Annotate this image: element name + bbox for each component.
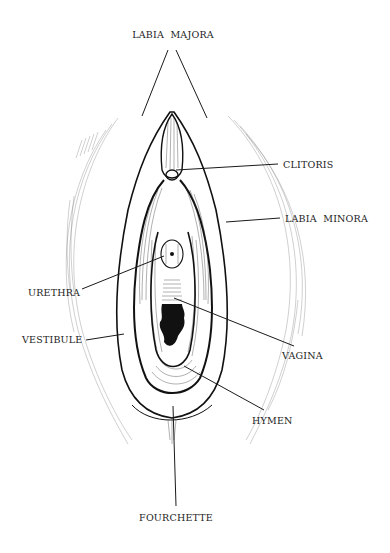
fourchette-shading — [168, 420, 176, 444]
label-urethra: URETHRA — [28, 287, 80, 298]
labia-majora-left-hatching — [66, 118, 132, 444]
vaginal-opening — [160, 280, 185, 346]
leader-labia-minora — [226, 218, 280, 222]
anatomical-diagram: LABIA MAJORA CLITORIS LABIA MINORA URETH… — [0, 0, 390, 553]
leader-hymen — [184, 366, 264, 410]
leader-labia-majora-right — [176, 50, 207, 118]
label-clitoris: CLITORIS — [283, 159, 333, 170]
label-hymen: HYMEN — [252, 415, 293, 426]
label-vestibule: VESTIBULE — [21, 334, 82, 345]
leader-fourchette — [173, 406, 176, 506]
urethra — [161, 240, 183, 268]
label-labia-minora: LABIA MINORA — [285, 213, 368, 224]
clitoral-hood — [161, 114, 182, 178]
label-fourchette: FOURCHETTE — [139, 512, 213, 523]
leader-clitoris — [176, 164, 278, 170]
label-labia-majora: LABIA MAJORA — [132, 29, 214, 40]
leader-labia-majora-left — [142, 50, 168, 116]
vestibule-contour — [151, 232, 195, 367]
labia-majora-contour — [117, 112, 227, 420]
labia-minora — [134, 180, 212, 393]
leader-lines — [82, 50, 294, 506]
label-vagina: VAGINA — [281, 350, 323, 361]
